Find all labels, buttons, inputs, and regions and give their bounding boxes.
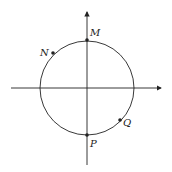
point-Q: Q xyxy=(118,117,131,128)
svg-text:Q: Q xyxy=(123,117,131,128)
svg-text:M: M xyxy=(89,27,101,38)
svg-text:P: P xyxy=(89,138,97,149)
svg-text:N: N xyxy=(39,47,50,58)
point-M: M xyxy=(85,27,101,42)
diagram-canvas: M N P Q xyxy=(0,0,172,172)
